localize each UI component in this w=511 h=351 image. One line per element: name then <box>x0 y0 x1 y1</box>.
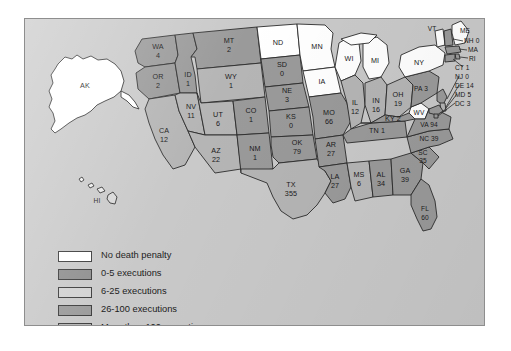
legend-swatch-26-100 <box>58 305 92 316</box>
legend-swatch-100-plus <box>58 323 92 327</box>
label-MT: MT <box>224 36 235 45</box>
state-RI[interactable] <box>455 54 460 59</box>
value-KS: 0 <box>289 121 293 130</box>
label-VA: VA 94 <box>420 121 438 128</box>
value-NE: 3 <box>285 95 289 104</box>
legend-swatch-0-5 <box>58 269 92 280</box>
label-KS: KS <box>286 112 296 121</box>
map-figure-panel: AK HI WA 4 OR 2 CA 12 ID 1 MT 2 WY 1 NV … <box>24 18 485 326</box>
label-MD: MD 5 <box>455 91 471 98</box>
label-MS: MS <box>354 170 365 179</box>
value-NV: 11 <box>187 111 195 120</box>
value-TX: 355 <box>285 189 297 198</box>
label-WI: WI <box>345 54 354 63</box>
value-WY: 1 <box>229 81 233 90</box>
value-SD: 0 <box>280 69 284 78</box>
value-MO: 66 <box>325 117 333 126</box>
label-MI: MI <box>371 56 379 65</box>
state-CT[interactable] <box>445 54 455 62</box>
legend-swatch-none <box>58 251 92 262</box>
label-ME: ME <box>460 27 471 34</box>
value-MT: 2 <box>227 45 231 54</box>
label-WV: WV <box>414 109 425 116</box>
state-VT[interactable] <box>435 29 445 47</box>
label-MN: MN <box>311 42 322 51</box>
legend-label-100-plus: More than 100 executions <box>101 323 208 326</box>
label-WA: WA <box>152 42 164 51</box>
label-NC: NC 39 <box>419 135 438 142</box>
label-AK: AK <box>80 81 90 90</box>
label-DE: DE 14 <box>455 82 474 89</box>
label-IN: IN <box>372 96 379 105</box>
value-CA: 12 <box>160 135 168 144</box>
label-ND: ND <box>273 38 284 47</box>
label-AZ: AZ <box>211 146 221 155</box>
label-FL: FL <box>421 205 429 212</box>
label-NH: NH 0 <box>464 37 480 44</box>
label-UT: UT <box>213 110 223 119</box>
legend-item-0-5[interactable]: 0-5 executions <box>58 265 358 283</box>
label-NJ: NJ 0 <box>455 73 469 80</box>
value-CO: 1 <box>249 115 253 124</box>
value-OK: 79 <box>293 147 301 156</box>
legend-item-100-plus[interactable]: More than 100 executions <box>58 319 358 326</box>
state-AK[interactable] <box>49 55 124 133</box>
value-LA: 27 <box>331 181 339 190</box>
map-legend: No death penalty 0-5 executions 6-25 exe… <box>58 247 358 326</box>
value-IN: 16 <box>372 105 380 114</box>
label-MO: MO <box>323 108 335 117</box>
label-CA: CA <box>159 126 169 135</box>
label-HI: HI <box>94 197 101 204</box>
state-DC[interactable] <box>434 114 438 118</box>
label-VT: VT <box>428 25 437 32</box>
label-RI: RI <box>469 55 476 62</box>
us-choropleth-map: AK HI WA 4 OR 2 CA 12 ID 1 MT 2 WY 1 NV … <box>25 19 485 245</box>
label-ID: ID <box>184 70 191 79</box>
label-AL: AL <box>377 170 386 179</box>
alaska-panhandle <box>121 91 139 109</box>
label-CT: CT 1 <box>455 64 470 71</box>
label-GA: GA <box>400 166 411 175</box>
legend-label-26-100: 26-100 executions <box>101 305 177 314</box>
label-OR: OR <box>153 72 164 81</box>
state-MA[interactable] <box>445 46 461 54</box>
label-OH: OH <box>393 90 404 99</box>
label-TN: TN 1 <box>369 126 385 135</box>
value-AL: 34 <box>377 179 385 188</box>
value-IL: 12 <box>351 107 359 116</box>
label-PA: PA 3 <box>414 85 428 92</box>
label-AR: AR <box>326 140 336 149</box>
value-FL: 60 <box>421 214 429 221</box>
value-AR: 27 <box>327 149 335 158</box>
legend-item-26-100[interactable]: 26-100 executions <box>58 301 358 319</box>
legend-label-0-5: 0-5 executions <box>101 269 161 278</box>
label-NM: NM <box>249 144 260 153</box>
value-SC: 35 <box>419 157 427 164</box>
label-NY: NY <box>414 58 424 67</box>
label-TX: TX <box>286 180 295 189</box>
value-OH: 19 <box>394 99 402 108</box>
label-IA: IA <box>319 77 326 86</box>
legend-label-6-25: 6-25 executions <box>101 287 167 296</box>
legend-item-no-death-penalty[interactable]: No death penalty <box>58 247 358 265</box>
value-GA: 39 <box>401 175 409 184</box>
label-NV: NV <box>186 102 196 111</box>
label-OK: OK <box>292 138 303 147</box>
label-MA: MA <box>468 46 479 53</box>
legend-label-none: No death penalty <box>101 251 171 260</box>
value-ID: 1 <box>186 79 190 88</box>
label-KY: KY 2 <box>385 114 401 123</box>
label-IL: IL <box>352 98 358 107</box>
legend-swatch-6-25 <box>58 287 92 298</box>
label-CO: CO <box>246 106 257 115</box>
label-NE: NE <box>282 86 292 95</box>
value-OR: 2 <box>156 81 160 90</box>
label-WY: WY <box>225 72 237 81</box>
value-NM: 1 <box>253 153 257 162</box>
value-AZ: 22 <box>212 155 220 164</box>
label-LA: LA <box>331 172 340 181</box>
value-WA: 4 <box>156 51 160 60</box>
label-DC: DC 3 <box>455 100 471 107</box>
legend-item-6-25[interactable]: 6-25 executions <box>58 283 358 301</box>
label-SD: SD <box>277 60 287 69</box>
